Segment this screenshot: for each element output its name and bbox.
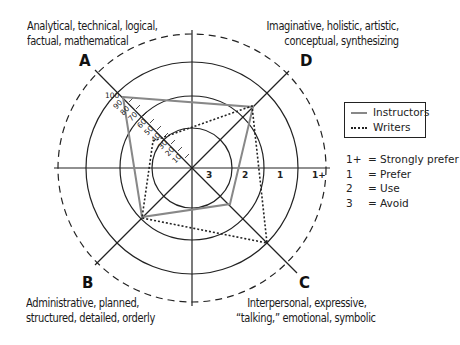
scale-key: 1+=Strongly prefer 1=Prefer 2=Use 3=Avoi… <box>346 152 459 210</box>
scale-key-meaning: Prefer <box>380 168 411 180</box>
quadrant-letter-B: B <box>82 274 93 292</box>
legend-item-instructors: Instructors <box>351 106 429 118</box>
axis-C <box>192 168 297 273</box>
scale-key-eq: = <box>368 167 380 182</box>
quadrant-letter-A: A <box>79 52 91 70</box>
quadrant-letter-D: D <box>300 52 312 70</box>
quadrant-A-description: Analytical, technical, logical, factual,… <box>27 19 158 49</box>
scale-key-eq: = <box>368 181 380 196</box>
scale-key-row: 3=Avoid <box>346 196 459 211</box>
scale-key-meaning: Strongly prefer <box>380 153 459 165</box>
tick-label-100: 100 <box>105 91 119 100</box>
quadrant-C-desc-line1: Interpersonal, expressive, <box>236 296 376 311</box>
ring-label-1plus: 1+ <box>312 170 326 180</box>
scale-key-value: 1 <box>346 167 368 182</box>
scale-key-value: 2 <box>346 181 368 196</box>
scale-key-meaning: Avoid <box>380 197 409 209</box>
scale-key-row: 1=Prefer <box>346 167 459 182</box>
quadrant-D-desc-line1: Imaginative, holistic, artistic, <box>267 19 399 34</box>
scale-key-meaning: Use <box>380 182 400 194</box>
scale-key-value: 3 <box>346 196 368 211</box>
quadrant-A-desc-line2: factual, mathematical <box>27 34 158 49</box>
quadrant-B-desc-line2: structured, detailed, orderly <box>26 311 155 326</box>
scale-key-row: 2=Use <box>346 181 459 196</box>
quadrant-B-desc-line1: Administrative, planned, <box>26 296 155 311</box>
axis-A-ticks <box>129 98 189 158</box>
quadrant-B-description: Administrative, planned, structured, det… <box>26 296 155 326</box>
scale-key-eq: = <box>368 152 380 167</box>
quadrant-D-description: Imaginative, holistic, artistic, concept… <box>267 19 399 49</box>
scale-key-value: 1+ <box>346 152 368 167</box>
ring-label-1: 1 <box>277 170 283 180</box>
solid-line-icon <box>351 112 367 114</box>
scale-key-eq: = <box>368 196 380 211</box>
dotted-line-icon <box>351 127 367 129</box>
quadrant-C-description: Interpersonal, expressive, “talking,” em… <box>236 296 376 326</box>
quadrant-A-desc-line1: Analytical, technical, logical, <box>27 19 158 34</box>
ring-label-2: 2 <box>242 170 248 180</box>
legend-label-instructors: Instructors <box>373 106 429 118</box>
scale-key-row: 1+=Strongly prefer <box>346 152 459 167</box>
legend: Instructors Writers <box>344 102 426 138</box>
quadrant-C-desc-line2: “talking,” emotional, symbolic <box>236 311 376 326</box>
ring-label-3: 3 <box>206 170 212 180</box>
axis-D <box>192 71 289 168</box>
quadrant-D-desc-line2: conceptual, synthesizing <box>267 34 399 49</box>
legend-item-writers: Writers <box>351 121 411 133</box>
legend-label-writers: Writers <box>373 121 411 133</box>
quadrant-letter-C: C <box>299 274 310 292</box>
